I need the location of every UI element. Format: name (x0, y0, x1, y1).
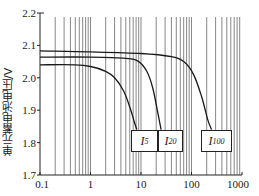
series-label-i100: I100 (201, 130, 232, 152)
y-tick-label: 1.9 (22, 104, 36, 116)
x-tick-label: 100 (183, 178, 200, 190)
label-sub: 5 (145, 137, 149, 146)
y-tick-label: 2.1 (22, 39, 36, 51)
x-tick-label: 1000 (227, 178, 250, 190)
series-label-i20: I20 (158, 130, 183, 152)
label-sub: 20 (169, 137, 177, 146)
x-tick-label: 10 (136, 178, 148, 190)
y-tick-labels: 1.71.81.92.02.12.2 (22, 7, 36, 181)
curve-i20 (40, 57, 161, 130)
voltage-discharge-chart: 1.71.81.92.02.12.2 0.11101001000 (0, 0, 259, 196)
y-tick-label: 2.2 (22, 7, 36, 19)
x-tick-label: 0.1 (35, 178, 49, 190)
y-tick-label: 1.8 (22, 137, 36, 149)
label-sub: 100 (213, 137, 225, 146)
x-tick-label: 1 (88, 178, 94, 190)
y-tick-label: 2.0 (22, 72, 36, 84)
y-axis-label: 单元蓄电池电压/V (2, 52, 16, 172)
series-label-i5: I5 (131, 130, 158, 152)
x-tick-labels: 0.11101001000 (35, 178, 249, 190)
